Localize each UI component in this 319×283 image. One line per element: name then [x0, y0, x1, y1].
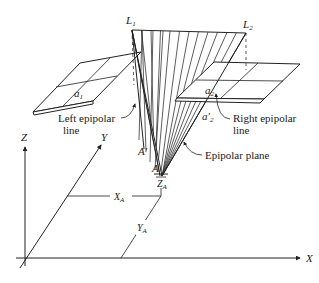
ground-coordinates: XA YA ZA — [67, 178, 168, 258]
y-axis — [20, 145, 101, 268]
a-label: A — [151, 162, 159, 174]
a2prime-label: a′2 — [202, 110, 214, 124]
svg-text:line: line — [233, 124, 250, 136]
axis-y-label: Y — [101, 131, 109, 143]
l1-label: L1 — [125, 14, 136, 28]
axis-x-label: X — [305, 252, 314, 264]
hatch-line — [159, 31, 171, 159]
axis-z-label: Z — [21, 131, 28, 143]
hatch-line — [142, 30, 152, 122]
left-photo: a1 — [33, 52, 141, 115]
svg-text:Left epipolar: Left epipolar — [58, 112, 115, 124]
svg-text:line: line — [63, 124, 80, 136]
callout-epipolar-plane: Epipolar plane — [184, 142, 270, 161]
aprime-label: A′ — [137, 145, 148, 157]
l2-label: L2 — [242, 18, 253, 32]
right-photo: a2 — [175, 62, 300, 103]
epipolar-diagram: X Z Y XA YA ZA a1 — [0, 0, 319, 283]
hatch-line — [162, 32, 199, 176]
svg-text:Epipolar plane: Epipolar plane — [205, 149, 270, 161]
svg-text:Right epipolar: Right epipolar — [233, 112, 297, 124]
za-label: ZA — [157, 178, 168, 191]
